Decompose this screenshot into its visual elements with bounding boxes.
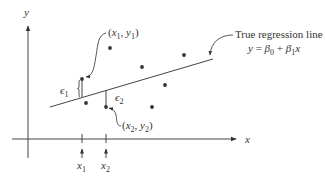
error-1-label: ϵ1 bbox=[60, 84, 68, 99]
data-point bbox=[163, 83, 167, 87]
x-tick-1: x1 bbox=[76, 134, 86, 174]
x-tick-2-label: x2 bbox=[100, 159, 110, 174]
data-point bbox=[140, 65, 144, 69]
regression-line bbox=[50, 59, 213, 107]
data-point bbox=[104, 105, 108, 109]
point-1-label: (x1, y1) bbox=[108, 26, 139, 41]
x-axis-label: x bbox=[244, 133, 250, 145]
x-tick-1-label: x1 bbox=[76, 159, 86, 174]
regression-leader bbox=[210, 35, 233, 55]
data-point bbox=[84, 101, 88, 105]
regression-diagram: y x x1 x2 ϵ1 ϵ2 (x1, y1) (x2, y2) bbox=[0, 0, 325, 176]
regression-equation: y = β0 + β1x bbox=[247, 42, 300, 57]
regression-title: True regression line bbox=[235, 28, 323, 40]
point-1-leader bbox=[86, 33, 106, 77]
data-point bbox=[108, 46, 112, 50]
point-2-label: (x2, y2) bbox=[122, 119, 153, 134]
x-axis: x bbox=[12, 133, 250, 145]
y-axis: y bbox=[23, 6, 29, 158]
data-point bbox=[150, 105, 154, 109]
y-axis-label: y bbox=[23, 6, 29, 18]
point-2-leader bbox=[109, 108, 121, 126]
data-point bbox=[80, 77, 84, 81]
x-tick-2: x2 bbox=[100, 134, 110, 174]
error-2-label: ϵ2 bbox=[115, 91, 123, 106]
error-1-brace bbox=[78, 80, 81, 97]
data-point bbox=[182, 53, 186, 57]
